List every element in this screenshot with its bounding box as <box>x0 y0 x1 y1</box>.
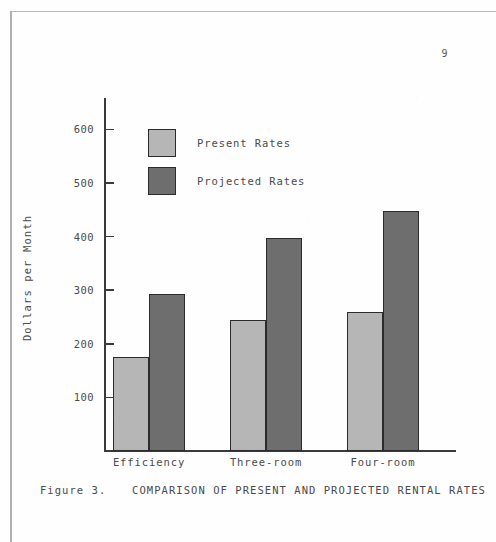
x-axis-label-four-room: Four-room <box>323 456 443 468</box>
y-axis-tick <box>105 182 114 184</box>
y-axis-tick <box>105 343 114 345</box>
y-axis-tick-label: 300 <box>60 284 94 296</box>
scanned-page: 9 Dollars per Month 100200300400500600 E… <box>0 0 496 542</box>
bar-chart: Dollars per Month 100200300400500600 Eff… <box>0 0 496 542</box>
bar-efficiency-projected-rates <box>149 294 185 451</box>
bar-three-room-projected-rates <box>266 238 302 451</box>
y-axis-tick-label: 100 <box>60 391 94 403</box>
y-axis-tick <box>105 289 114 291</box>
caption-text: COMPARISON OF PRESENT AND PROJECTED RENT… <box>132 484 486 496</box>
bar-efficiency-present-rates <box>113 357 149 451</box>
caption-prefix: Figure 3. <box>40 484 106 496</box>
legend-label: Present Rates <box>197 137 291 149</box>
y-axis-title: Dollars per Month <box>21 188 33 368</box>
y-axis-tick-label: 200 <box>60 338 94 350</box>
y-axis-tick <box>105 129 114 131</box>
x-axis-label-efficiency: Efficiency <box>89 456 209 468</box>
legend-label: Projected Rates <box>197 175 305 187</box>
y-axis-tick-label: 600 <box>60 123 94 135</box>
bar-four-room-present-rates <box>347 312 383 451</box>
bar-three-room-present-rates <box>230 320 266 451</box>
y-axis-tick-label: 400 <box>60 231 94 243</box>
y-axis-tick <box>105 236 114 238</box>
x-axis-label-three-room: Three-room <box>206 456 326 468</box>
y-axis-tick-label: 500 <box>60 177 94 189</box>
bar-four-room-projected-rates <box>383 211 419 451</box>
figure-caption: Figure 3. COMPARISON OF PRESENT AND PROJ… <box>40 484 486 496</box>
legend-swatch-present-rates <box>148 129 176 157</box>
legend-swatch-projected-rates <box>148 167 176 195</box>
